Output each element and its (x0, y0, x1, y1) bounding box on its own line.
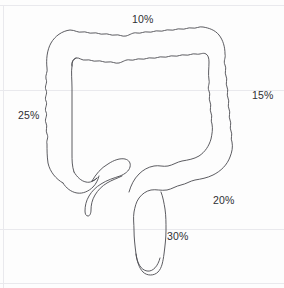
colon-outline-group (45, 27, 232, 275)
colon-diagram-svg (0, 0, 284, 288)
colon-distribution-figure: 10% 15% 25% 20% 30% (0, 0, 284, 288)
label-sigmoid-colon-percent: 20% (213, 195, 235, 206)
label-descending-colon-percent: 15% (252, 90, 274, 101)
label-transverse-colon-percent: 10% (132, 14, 154, 25)
label-rectum-percent: 30% (167, 231, 189, 242)
colon-inner-contour (72, 53, 213, 192)
appendix-outline (85, 159, 130, 216)
rectum-cap (136, 254, 160, 271)
gridlines (0, 5, 284, 288)
label-ascending-colon-percent: 25% (18, 110, 40, 121)
